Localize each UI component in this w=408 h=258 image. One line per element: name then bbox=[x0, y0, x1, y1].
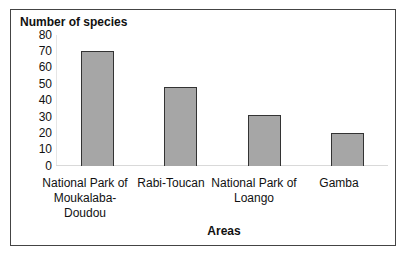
x-tick-label-moukalaba: National Park of Moukalaba- Doudou bbox=[35, 176, 135, 221]
y-tick: 50 bbox=[22, 78, 52, 90]
y-tick: 80 bbox=[22, 29, 52, 41]
bar bbox=[164, 87, 197, 166]
y-tick: 20 bbox=[22, 127, 52, 139]
x-axis-title: Areas bbox=[0, 224, 408, 238]
y-tick: 0 bbox=[22, 160, 52, 172]
y-tick: 40 bbox=[22, 94, 52, 106]
y-axis-line bbox=[56, 35, 57, 166]
bar bbox=[331, 133, 364, 166]
y-tick: 10 bbox=[22, 143, 52, 155]
x-tick-label-gamba: Gamba bbox=[289, 176, 389, 191]
label-line: National Park of bbox=[35, 176, 135, 191]
label-line: Gamba bbox=[289, 176, 389, 191]
label-line: Doudou bbox=[35, 206, 135, 221]
plot-area bbox=[56, 35, 388, 166]
label-line: Moukalaba- bbox=[35, 191, 135, 206]
y-axis-title: Number of species bbox=[20, 15, 127, 29]
y-tick: 70 bbox=[22, 45, 52, 57]
y-tick: 60 bbox=[22, 61, 52, 73]
bar bbox=[248, 115, 281, 166]
y-tick: 30 bbox=[22, 111, 52, 123]
label-line: Loango bbox=[204, 191, 304, 206]
bar bbox=[81, 51, 114, 166]
